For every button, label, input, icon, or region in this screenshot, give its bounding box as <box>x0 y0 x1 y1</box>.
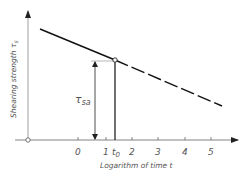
tick-label-5: 5 <box>208 147 214 157</box>
t0-label: t0 <box>112 147 121 159</box>
shear-strength-diagram: 0 1 2 3 4 5 t0 Logarithm of time t Shear… <box>0 0 243 176</box>
tick-label-0: 0 <box>75 147 81 157</box>
x-ticks <box>78 137 211 140</box>
tick-label-4: 4 <box>182 147 188 157</box>
tau-sa-label: τsa <box>75 93 91 107</box>
t0-point-marker <box>113 58 117 62</box>
y-axis-label: Shearing strength τs <box>9 40 19 118</box>
origin-marker <box>26 138 30 142</box>
tick-label-1: 1 <box>103 147 109 157</box>
extrapolated-line <box>115 60 222 106</box>
measured-line <box>40 29 115 60</box>
x-axis-label: Logarithm of time t <box>100 161 174 170</box>
tick-label-3: 3 <box>155 147 161 157</box>
tick-label-2: 2 <box>129 147 135 157</box>
